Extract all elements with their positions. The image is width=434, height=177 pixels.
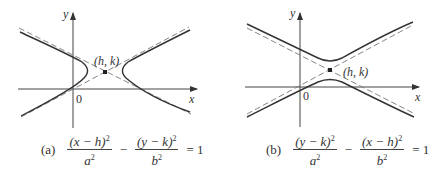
- fraction-1-b: (y − k)2 a2: [293, 132, 336, 169]
- numerator-2-b: (x − h): [362, 134, 398, 149]
- exponent: 2: [106, 134, 110, 143]
- y-axis-label-a: y: [62, 7, 69, 21]
- exponent: 2: [331, 134, 335, 143]
- numerator-2-a: (y − k): [137, 134, 172, 149]
- exponent: 2: [383, 153, 387, 162]
- exponent: 2: [316, 153, 320, 162]
- x-axis-label-b: x: [414, 90, 421, 104]
- caption-b: (b) (y − k)2 a2 − (x − h)2 b2 = 1: [266, 130, 433, 170]
- numerator-1-a: (x − h): [69, 134, 105, 149]
- hyperbola-branch-upper-b: [247, 22, 413, 61]
- y-axis-label-b: y: [289, 6, 296, 20]
- origin-label-b: 0: [303, 89, 309, 103]
- fraction-1-a: (x − h)2 a2: [67, 132, 111, 169]
- caption-tag-b: (b): [266, 142, 281, 158]
- exponent: 2: [158, 153, 162, 162]
- figure-b: y x 0 (h, k): [245, 6, 421, 127]
- origin-label-a: 0: [76, 92, 82, 106]
- fraction-2-b: (x − h)2 b2: [360, 132, 404, 169]
- center-point-b: [328, 68, 332, 72]
- minus-operator-b: −: [345, 142, 352, 158]
- exponent: 2: [172, 134, 176, 143]
- x-axis-label-a: x: [188, 92, 195, 106]
- numerator-1-b: (y − k): [295, 134, 330, 149]
- hyperbola-branch-right-a: [122, 30, 190, 112]
- exponent: 2: [91, 153, 95, 162]
- center-label-a: (h, k): [94, 54, 119, 68]
- hyperbola-branch-lower-b: [247, 80, 414, 118]
- fraction-2-a: (y − k)2 b2: [135, 132, 178, 169]
- center-label-b: (h, k): [343, 65, 368, 79]
- minus-operator-a: −: [120, 142, 127, 158]
- equals-one-a: = 1: [186, 142, 203, 158]
- caption-a: (a) (x − h)2 a2 − (y − k)2 b2 = 1: [41, 130, 208, 170]
- caption-tag-a: (a): [41, 142, 55, 158]
- figure-a: y x 0 (h, k): [18, 7, 197, 128]
- equals-one-b: = 1: [412, 142, 429, 158]
- exponent: 2: [398, 134, 402, 143]
- center-point-a: [103, 70, 107, 74]
